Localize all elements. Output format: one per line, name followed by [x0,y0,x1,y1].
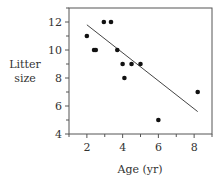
y-tick-label: 6 [55,100,62,113]
y-tick-label: 4 [55,128,62,141]
x-tick-label: 2 [83,141,90,154]
y-axis-label-line1: Litter [5,58,45,71]
x-tick-label: 4 [119,141,126,154]
data-point [138,62,143,67]
regression-line [87,25,198,112]
data-point [109,20,114,25]
data-point [156,118,161,123]
data-point [102,20,107,25]
data-point [94,48,99,53]
y-axis-label-line2: size [5,72,45,85]
plot-frame [69,8,212,134]
data-point [115,48,120,53]
x-tick-label: 6 [155,141,162,154]
x-tick-label: 8 [191,141,198,154]
scatter-chart: 46810122468 [0,0,222,183]
data-point [129,62,134,67]
y-tick-label: 8 [55,72,62,85]
y-tick-label: 10 [48,44,62,57]
x-axis-label: Age (yr) [100,163,180,176]
data-point [122,76,127,81]
data-point [85,34,90,39]
data-point [120,62,125,67]
data-point [195,90,200,95]
y-tick-label: 12 [48,16,62,29]
